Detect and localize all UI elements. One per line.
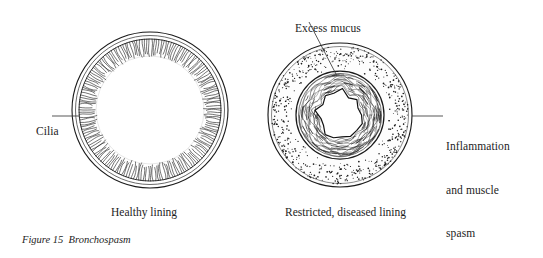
stipple-dot xyxy=(298,155,300,157)
stipple-dot xyxy=(378,144,379,145)
stipple-dot xyxy=(400,129,401,130)
stipple-dot xyxy=(280,103,281,104)
stipple-dot xyxy=(359,171,360,172)
stipple-dot xyxy=(368,52,370,54)
stipple-dot xyxy=(344,55,345,56)
stipple-dot xyxy=(351,58,352,59)
stipple-dot xyxy=(345,53,346,54)
stipple-dot xyxy=(302,149,303,150)
stipple-dot xyxy=(387,155,388,156)
stipple-dot xyxy=(318,54,319,55)
stipple-dot xyxy=(286,128,288,130)
stipple-dot xyxy=(292,75,293,76)
stipple-dot xyxy=(278,136,279,137)
stipple-dot xyxy=(312,66,313,67)
stipple-dot xyxy=(331,171,332,172)
stipple-dot xyxy=(407,126,408,127)
stipple-dot xyxy=(325,67,326,68)
stipple-dot xyxy=(301,63,302,64)
stipple-dot xyxy=(288,103,289,104)
stipple-dot xyxy=(308,70,309,71)
stipple-dot xyxy=(289,101,290,102)
stipple-dot xyxy=(319,50,320,51)
stipple-dot xyxy=(279,83,281,85)
stipple-dot xyxy=(358,161,360,163)
stipple-dot xyxy=(308,66,309,67)
stipple-dot xyxy=(398,146,399,147)
stipple-dot xyxy=(377,70,378,71)
stipple-dot xyxy=(325,164,326,165)
stipple-dot xyxy=(346,53,348,55)
stipple-dot xyxy=(376,62,377,63)
stipple-dot xyxy=(402,134,404,136)
stipple-dot xyxy=(297,141,298,142)
stipple-dot xyxy=(337,173,338,174)
stipple-dot xyxy=(389,139,391,141)
stipple-dot xyxy=(285,100,286,101)
stipple-dot xyxy=(304,57,305,58)
stipple-dot xyxy=(388,147,389,148)
stipple-dot xyxy=(377,64,378,65)
caption-diseased-lining: Restricted, diseased lining xyxy=(285,206,406,218)
stipple-dot xyxy=(344,68,345,69)
stipple-dot xyxy=(364,73,366,75)
stipple-dot xyxy=(337,179,338,180)
stipple-dot xyxy=(279,100,280,101)
stipple-dot xyxy=(309,56,310,57)
stipple-dot xyxy=(336,173,337,174)
stipple-dot xyxy=(280,98,281,99)
stipple-dot xyxy=(301,169,302,170)
stipple-dot xyxy=(309,176,311,178)
stipple-dot xyxy=(401,96,403,98)
stipple-dot xyxy=(341,175,342,176)
stipple-dot xyxy=(274,119,275,120)
stipple-dot xyxy=(387,145,388,146)
stipple-dot xyxy=(300,169,301,170)
stipple-dot xyxy=(396,150,398,152)
stipple-dot xyxy=(293,164,294,165)
stipple-dot xyxy=(392,138,394,140)
stipple-dot xyxy=(316,51,317,52)
stipple-dot xyxy=(299,158,300,159)
stipple-dot xyxy=(303,163,304,164)
stipple-dot xyxy=(292,81,293,82)
stipple-dot xyxy=(379,165,380,166)
stipple-dot xyxy=(288,99,289,100)
stipple-dot xyxy=(389,150,390,151)
stipple-dot xyxy=(282,149,284,151)
stipple-dot xyxy=(317,157,318,158)
stipple-dot xyxy=(337,180,339,182)
stipple-dot xyxy=(274,104,276,106)
stipple-dot xyxy=(388,120,390,122)
stipple-dot xyxy=(295,167,296,168)
stipple-dot xyxy=(282,132,283,133)
stipple-dot xyxy=(297,62,298,63)
stipple-dot xyxy=(299,67,300,68)
stipple-dot xyxy=(356,57,358,59)
label-inflammation-line-1: Inflammation xyxy=(446,139,510,154)
stipple-dot xyxy=(294,69,295,70)
stipple-dot xyxy=(288,121,289,122)
stipple-dot xyxy=(322,180,323,181)
stipple-dot xyxy=(339,168,341,170)
stipple-dot xyxy=(322,59,324,61)
stipple-dot xyxy=(292,80,293,81)
stipple-dot xyxy=(375,165,377,167)
stipple-dot xyxy=(357,171,359,173)
stipple-dot xyxy=(308,67,309,68)
stipple-dot xyxy=(378,68,379,69)
stipple-dot xyxy=(395,124,396,125)
stipple-dot xyxy=(332,61,333,62)
stipple-dot xyxy=(359,173,360,174)
stipple-dot xyxy=(316,164,317,165)
stipple-dot xyxy=(385,163,386,164)
stipple-dot xyxy=(383,76,384,77)
stipple-dot xyxy=(306,60,307,61)
stipple-dot xyxy=(394,87,395,88)
stipple-dot xyxy=(306,56,307,57)
stipple-dot xyxy=(359,61,360,62)
stipple-dot xyxy=(332,60,333,61)
stipple-dot xyxy=(390,129,392,131)
stipple-dot xyxy=(286,86,287,87)
stipple-dot xyxy=(296,159,297,160)
